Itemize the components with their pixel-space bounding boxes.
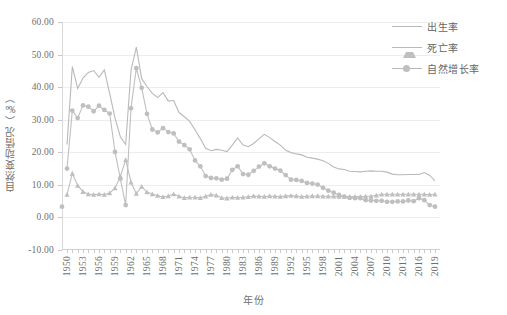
data-point xyxy=(129,106,134,111)
x-tick-mark xyxy=(152,250,153,253)
data-point xyxy=(422,198,427,203)
x-tick-label: 1998 xyxy=(318,256,328,276)
x-tick-mark xyxy=(72,250,73,253)
x-tick-mark xyxy=(147,250,148,253)
x-tick-mark xyxy=(382,250,383,253)
data-point xyxy=(123,157,128,162)
x-tick-mark xyxy=(371,250,372,253)
x-tick-mark xyxy=(99,250,100,253)
series-line-出生率 xyxy=(67,47,435,181)
x-tick-mark xyxy=(323,250,324,253)
x-tick-mark xyxy=(83,250,84,253)
chart-legend: 出生率死亡率自然增长率 xyxy=(392,16,504,79)
x-tick-label: 2004 xyxy=(350,256,360,276)
data-point xyxy=(193,158,198,163)
data-point xyxy=(219,177,224,182)
legend-item-出生率[interactable]: 出生率 xyxy=(392,16,504,37)
x-tick-mark xyxy=(216,250,217,253)
x-tick-label: 1965 xyxy=(142,256,152,276)
x-tick-mark xyxy=(254,250,255,253)
x-tick-mark xyxy=(307,250,308,253)
data-point xyxy=(203,174,208,179)
data-point xyxy=(401,199,406,204)
data-point xyxy=(321,185,326,190)
data-point xyxy=(155,130,160,135)
x-axis-title: 年份 xyxy=(0,292,507,307)
legend-label: 出生率 xyxy=(427,19,459,34)
data-point xyxy=(161,126,166,131)
x-tick-mark xyxy=(163,250,164,253)
x-tick-mark xyxy=(200,250,201,253)
data-point xyxy=(70,108,75,113)
data-point xyxy=(123,203,128,208)
x-tick-label: 1962 xyxy=(126,256,136,276)
data-point xyxy=(433,204,438,209)
data-point xyxy=(342,194,347,199)
data-point xyxy=(315,182,320,187)
y-tick-label: 10.00 xyxy=(32,180,54,190)
data-point xyxy=(289,177,294,182)
data-point xyxy=(427,203,432,208)
x-tick-mark xyxy=(350,250,351,253)
data-point xyxy=(60,204,65,209)
data-point xyxy=(246,172,251,177)
x-tick-label: 1983 xyxy=(238,256,248,276)
data-point xyxy=(326,188,331,193)
data-point xyxy=(134,66,139,71)
x-tick-mark xyxy=(296,250,297,253)
data-point xyxy=(198,164,203,169)
x-tick-mark xyxy=(286,250,287,253)
x-tick-mark xyxy=(430,250,431,253)
x-tick-label: 2016 xyxy=(414,256,424,276)
data-point xyxy=(417,196,422,201)
y-tick-label: -10.00 xyxy=(28,245,54,255)
x-tick-label: 2013 xyxy=(398,256,408,276)
y-tick-label: 50.00 xyxy=(32,50,54,60)
data-point xyxy=(262,161,267,166)
x-tick-mark xyxy=(222,250,223,253)
x-tick-label: 1950 xyxy=(62,256,72,276)
x-tick-mark xyxy=(392,250,393,253)
x-tick-mark xyxy=(179,250,180,253)
x-tick-label: 1977 xyxy=(206,256,216,276)
data-point xyxy=(128,180,133,185)
x-tick-label: 1968 xyxy=(158,256,168,276)
plot-area xyxy=(62,22,440,250)
x-tick-mark xyxy=(168,250,169,253)
x-tick-mark xyxy=(158,250,159,253)
data-point xyxy=(230,167,235,172)
data-point xyxy=(86,104,91,109)
x-tick-label: 2019 xyxy=(430,256,440,276)
x-tick-mark xyxy=(259,250,260,253)
x-tick-mark xyxy=(184,250,185,253)
data-point xyxy=(273,166,278,171)
x-tick-label: 1953 xyxy=(78,256,88,276)
data-point xyxy=(75,116,80,121)
legend-item-自然增长率[interactable]: 自然增长率 xyxy=(392,58,504,79)
data-point xyxy=(145,111,150,116)
data-point xyxy=(331,190,336,195)
data-point xyxy=(75,183,80,188)
data-point xyxy=(177,139,182,144)
x-tick-mark xyxy=(243,250,244,253)
x-tick-mark xyxy=(248,250,249,253)
x-tick-label: 2001 xyxy=(334,256,344,276)
x-tick-label: 1959 xyxy=(110,256,120,276)
x-tick-mark xyxy=(211,250,212,253)
chart-container: 自然变动情况（‰） 年份 60.0050.0040.0030.0020.0010… xyxy=(0,0,507,315)
legend-item-死亡率[interactable]: 死亡率 xyxy=(392,37,504,58)
data-point xyxy=(182,143,187,148)
x-tick-mark xyxy=(238,250,239,253)
x-tick-label: 2010 xyxy=(382,256,392,276)
data-point xyxy=(118,176,123,181)
x-tick-mark xyxy=(206,250,207,253)
series-line-自然增长率 xyxy=(67,68,435,206)
data-point xyxy=(235,164,240,169)
data-point xyxy=(267,164,272,169)
data-point xyxy=(113,150,118,155)
data-point xyxy=(241,172,246,177)
x-tick-label: 1971 xyxy=(174,256,184,276)
data-point xyxy=(166,130,171,135)
x-tick-label: 1956 xyxy=(94,256,104,276)
data-point xyxy=(139,184,144,189)
